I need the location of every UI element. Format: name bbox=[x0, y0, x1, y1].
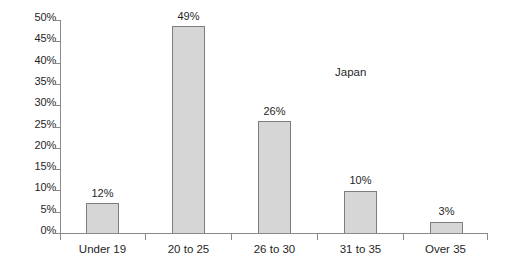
x-tick-mark bbox=[487, 233, 488, 240]
x-cat-label-20-to-25: 20 to 25 bbox=[144, 243, 233, 256]
bar-20-to-25[interactable] bbox=[172, 26, 205, 234]
x-cat-label-over-35: Over 35 bbox=[401, 243, 490, 256]
bar-chart: 0% 5% 10% 15% 20% 25% 30% 35% 40% 45% 50… bbox=[0, 0, 505, 266]
bar-31-to-35[interactable] bbox=[344, 191, 377, 234]
x-cat-label-31-to-35: 31 to 35 bbox=[316, 243, 405, 256]
x-tick-mark bbox=[231, 233, 232, 240]
chart-annotation-japan: Japan bbox=[335, 66, 366, 79]
bar-26-to-30[interactable] bbox=[258, 121, 291, 234]
x-tick-mark bbox=[403, 233, 404, 240]
x-tick-mark bbox=[60, 233, 61, 240]
bar-value-label-under-19: 12% bbox=[80, 188, 125, 199]
x-axis-line bbox=[60, 233, 487, 234]
bar-value-label-26-to-30: 26% bbox=[252, 106, 297, 117]
x-tick-mark bbox=[145, 233, 146, 240]
x-cat-label-under-19: Under 19 bbox=[58, 243, 147, 256]
bar-value-label-20-to-25: 49% bbox=[166, 11, 211, 22]
bar-value-label-31-to-35: 10% bbox=[338, 175, 383, 186]
bar-under-19[interactable] bbox=[86, 203, 119, 234]
x-tick-mark bbox=[317, 233, 318, 240]
x-cat-label-26-to-30: 26 to 30 bbox=[230, 243, 319, 256]
plot-area: 12% 49% 26% 10% 3% bbox=[0, 0, 505, 266]
bar-value-label-over-35: 3% bbox=[424, 206, 469, 217]
